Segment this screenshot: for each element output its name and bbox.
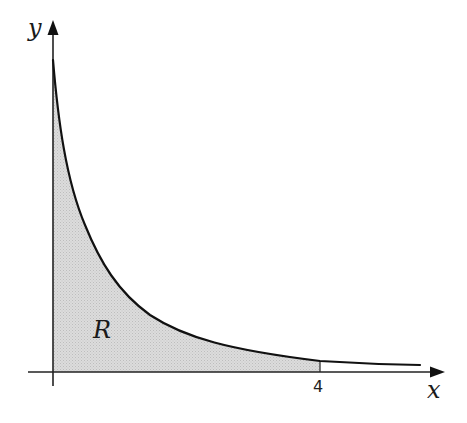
y-axis-arrow-icon xyxy=(48,20,59,35)
y-axis-label: y xyxy=(27,14,42,42)
region-label: R xyxy=(92,316,111,344)
x-axis-label: x xyxy=(427,376,441,404)
x-tick-label-4: 4 xyxy=(313,377,323,396)
graph-figure: y x R 4 xyxy=(0,0,467,423)
